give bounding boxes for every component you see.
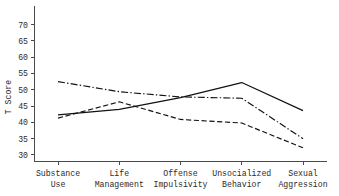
y-axis-group: 303540455055606570 — [18, 6, 34, 162]
x-tick-group — [58, 162, 303, 166]
x-tick-label-group: SubstanceUseLifeManagementOffenseImpulsi… — [36, 169, 328, 189]
series-line-3 — [58, 102, 303, 148]
x-axis-group: SubstanceUseLifeManagementOffenseImpulsi… — [35, 162, 328, 189]
y-tick-label: 50 — [18, 86, 28, 95]
y-tick-group — [31, 25, 35, 155]
y-tick-label: 55 — [18, 69, 28, 78]
x-tick-label: UnsocializedBehavior — [212, 169, 271, 189]
chart-container: 303540455055606570 SubstanceUseLifeManag… — [0, 0, 339, 196]
x-tick-label: OffenseImpulsivity — [153, 169, 207, 189]
y-tick-label: 35 — [18, 135, 28, 144]
line-chart: 303540455055606570 SubstanceUseLifeManag… — [0, 0, 339, 196]
y-tick-label: 65 — [18, 37, 28, 46]
x-tick-label: SexualAggression — [278, 169, 327, 189]
y-tick-label: 40 — [18, 118, 28, 127]
y-tick-label: 45 — [18, 102, 28, 111]
x-tick-label: SubstanceUse — [36, 169, 80, 189]
y-tick-label: 60 — [18, 53, 28, 62]
y-tick-label-group: 303540455055606570 — [18, 21, 28, 160]
series-line-1 — [58, 83, 303, 115]
y-tick-label: 70 — [18, 21, 28, 30]
y-axis-title: T Score — [4, 80, 13, 114]
y-tick-label: 30 — [18, 151, 28, 160]
series-line-2 — [58, 82, 303, 139]
series-group — [58, 82, 303, 148]
x-tick-label: LifeManagement — [95, 169, 144, 189]
